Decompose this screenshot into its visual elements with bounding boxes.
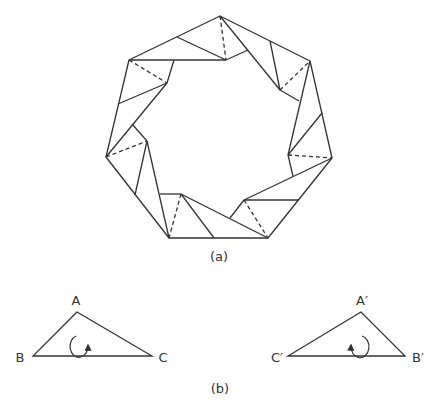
caption-b: (b) (211, 381, 229, 396)
vertex-label-b: B (16, 350, 25, 365)
clockwise-arrow-icon (70, 336, 88, 357)
vertex-label-c-prime: C′ (271, 350, 283, 365)
triangle-a-prime: A′ C′ B′ (271, 293, 424, 365)
vertex-label-b-prime: B′ (412, 350, 424, 365)
caption-a: (a) (210, 249, 228, 264)
heptagon-outline (106, 16, 332, 238)
counterclockwise-arrow-icon (351, 336, 369, 358)
vertex-label-c: C (158, 350, 167, 365)
vertex-label-a-prime: A′ (356, 293, 368, 308)
vertex-label-a: A (72, 293, 81, 308)
heptagon-ring (106, 16, 332, 238)
triangle-abc: A B C (16, 293, 168, 365)
figure-canvas: (a) A B C A′ C′ B′ (b) (0, 0, 440, 404)
